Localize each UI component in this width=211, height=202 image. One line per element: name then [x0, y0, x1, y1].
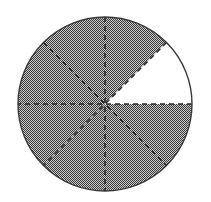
fraction-circle-figure: Fraction circle model Circle divided int…: [0, 0, 211, 202]
fraction-circle-diagram: Fraction circle model Circle divided int…: [0, 0, 211, 202]
